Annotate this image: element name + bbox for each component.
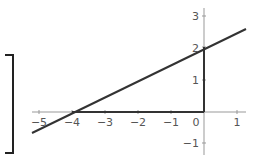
x-tick-label: 0 [193,116,200,129]
bracket-shape [5,55,13,153]
y-tick-label: 3 [192,10,199,23]
y-tick-label: −1 [183,137,199,150]
x-tick-label: −4 [64,116,80,129]
coordinate-plane: −5 −4 −3 −2 −1 0 1 3 2 1 −1 [0,0,257,164]
x-tick-label: −1 [163,116,179,129]
y-tick-label: 2 [192,42,199,55]
x-tick-label: 1 [234,116,241,129]
x-tick-label: −2 [130,116,146,129]
x-tick-label: −5 [31,116,47,129]
y-tick-label: 1 [192,74,199,87]
x-tick-label: −3 [97,116,113,129]
